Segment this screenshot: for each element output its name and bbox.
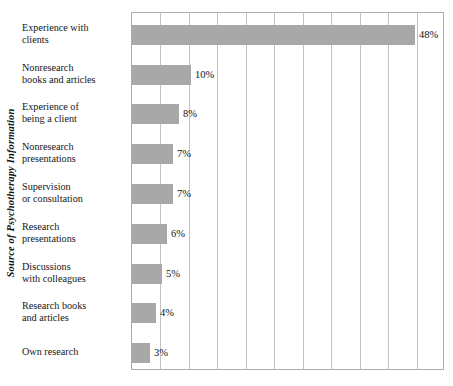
category-label-column: Experience with clientsNonresearch books…	[22, 12, 128, 370]
gridline	[360, 13, 361, 369]
bar-value-label: 3%	[154, 343, 168, 363]
gridline	[274, 13, 275, 369]
gridline	[331, 13, 332, 369]
gridline	[303, 13, 304, 369]
bar	[132, 184, 173, 204]
bar	[132, 65, 191, 85]
bar	[132, 25, 415, 45]
bar-value-label: 5%	[166, 264, 180, 284]
bar	[132, 343, 150, 363]
bar-value-label: 8%	[183, 104, 197, 124]
bar-value-label: 7%	[177, 184, 191, 204]
category-label: Experience with clients	[22, 22, 128, 45]
bar-value-label: 4%	[160, 303, 174, 323]
y-axis-title-text: Source of Psychotherapy Information	[5, 109, 16, 278]
bar	[132, 264, 162, 284]
bar	[132, 144, 173, 164]
category-label: Experience of being a client	[22, 101, 128, 124]
category-label: Research books and articles	[22, 300, 128, 323]
plot-area: 48%10%8%7%7%6%5%4%3%	[131, 12, 444, 370]
bar-value-label: 48%	[419, 25, 438, 45]
bar-value-label: 10%	[195, 65, 214, 85]
bar	[132, 104, 179, 124]
gridline	[417, 13, 418, 369]
category-label: Nonresearch presentations	[22, 141, 128, 164]
bar	[132, 303, 156, 323]
category-label: Nonresearch books and articles	[22, 62, 128, 85]
category-label: Research presentations	[22, 221, 128, 244]
bar-value-label: 6%	[171, 224, 185, 244]
bar-value-label: 7%	[177, 144, 191, 164]
bar-chart: Source of Psychotherapy Information Expe…	[0, 0, 453, 386]
bar	[132, 224, 167, 244]
gridline	[217, 13, 218, 369]
y-axis-title: Source of Psychotherapy Information	[0, 0, 20, 386]
gridline	[388, 13, 389, 369]
category-label: Discussions with colleagues	[22, 261, 128, 284]
category-label: Own research	[22, 346, 128, 358]
category-label: Supervision or consultation	[22, 181, 128, 204]
gridline	[246, 13, 247, 369]
